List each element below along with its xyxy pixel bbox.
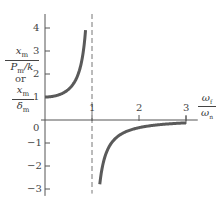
- y-tick-label: 4: [33, 23, 39, 33]
- y-tick-label: 2: [33, 69, 39, 79]
- curves: [45, 30, 186, 184]
- y-tick-label: 3: [33, 46, 39, 56]
- x-tick-label: 1: [89, 103, 95, 113]
- x-tick-label: 2: [136, 103, 142, 113]
- ylabel-bottom-fraction: xm δm: [12, 85, 34, 114]
- xlabel-fraction: ωf ωn: [198, 93, 216, 120]
- ylabel-or: or: [15, 73, 26, 84]
- y-tick-label: −3: [27, 184, 42, 194]
- curve-below-resonance: [45, 30, 86, 97]
- curve-above-resonance: [100, 123, 186, 184]
- axes: [41, 14, 198, 196]
- y-tick-label: −2: [27, 161, 42, 171]
- y-tick-label: 1: [33, 92, 39, 102]
- x-tick-label: 3: [183, 103, 189, 113]
- y-tick-label: −1: [27, 138, 42, 148]
- y-tick-label: 0: [33, 123, 39, 133]
